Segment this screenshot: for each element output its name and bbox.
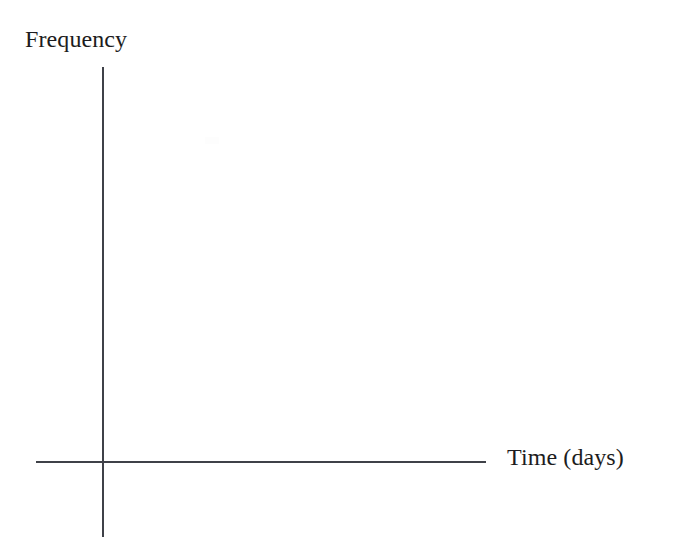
y-axis-label: Frequency <box>25 27 127 51</box>
plot-area <box>104 67 486 461</box>
x-axis-label: Time (days) <box>507 445 624 469</box>
scan-artifact <box>205 137 219 144</box>
figure-canvas: Frequency Time (days) <box>0 0 679 549</box>
x-axis-line <box>36 461 486 463</box>
